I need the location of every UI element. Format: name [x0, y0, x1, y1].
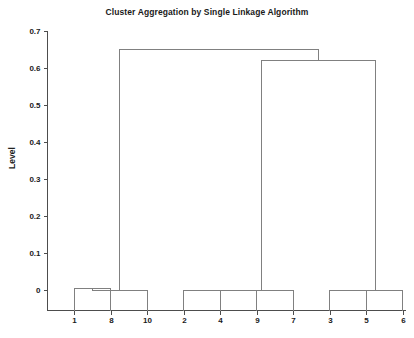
dendrogram-plot: 00.10.20.30.40.50.60.7 Level 18102497356 [0, 0, 414, 338]
leaf-label: 5 [364, 316, 369, 325]
leaf-label: 7 [291, 316, 296, 325]
dendrogram-links [74, 50, 403, 311]
x-axis: 18102497356 [48, 311, 407, 326]
leaf-label: 8 [109, 316, 114, 325]
leaf-label: 3 [328, 316, 333, 325]
y-tick-label: 0.4 [29, 138, 41, 147]
dendrogram-link [261, 61, 375, 290]
leaf-label: 6 [401, 316, 406, 325]
leaf-label: 4 [218, 316, 223, 325]
y-tick-label: 0.3 [29, 175, 41, 184]
leaf-label: 9 [255, 316, 260, 325]
y-tick-label: 0.5 [29, 101, 41, 110]
y-axis-title: Level [7, 147, 17, 169]
y-tick-label: 0 [36, 286, 41, 295]
y-tick-label: 0.1 [29, 249, 41, 258]
y-tick-labels: 00.10.20.30.40.50.60.7 [29, 27, 41, 295]
dendrogram-link [120, 50, 318, 291]
leaf-label: 10 [143, 316, 152, 325]
y-tick-marks [44, 32, 48, 291]
y-tick-label: 0.2 [29, 212, 41, 221]
leaf-label: 1 [72, 316, 77, 325]
leaf-label: 2 [182, 316, 187, 325]
y-tick-label: 0.6 [29, 64, 41, 73]
x-tick-labels: 18102497356 [72, 316, 406, 325]
y-axis: 00.10.20.30.40.50.60.7 Level [7, 27, 48, 311]
x-tick-marks [75, 311, 404, 315]
y-tick-label: 0.7 [29, 27, 41, 36]
dendrogram-figure: Cluster Aggregation by Single Linkage Al… [0, 0, 414, 338]
